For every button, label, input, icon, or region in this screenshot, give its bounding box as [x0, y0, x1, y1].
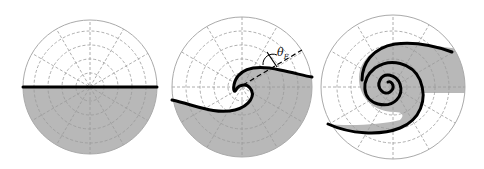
panel-spiral: [313, 7, 473, 167]
angle-label: θF: [277, 46, 290, 61]
panel-flat: [10, 7, 170, 167]
panel-rollup: θF: [162, 7, 322, 167]
figure-canvas: θF: [0, 0, 484, 169]
polar-grid: [162, 7, 322, 167]
lower-fluid-region: [170, 68, 315, 160]
